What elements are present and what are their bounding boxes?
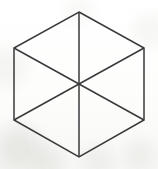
hexagon-diagram <box>0 0 158 169</box>
figure-canvas <box>0 0 158 169</box>
